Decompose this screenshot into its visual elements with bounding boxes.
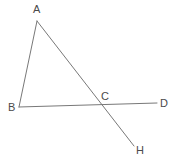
vertex-label-a: A xyxy=(33,4,40,15)
segment-AH-line xyxy=(37,21,134,146)
segment-AB-line xyxy=(19,21,37,107)
geometry-figure: A B C D H xyxy=(0,0,180,166)
geometry-canvas xyxy=(0,0,180,166)
vertex-label-c: C xyxy=(101,91,109,102)
segment-BD-line xyxy=(19,103,157,107)
vertex-label-h: H xyxy=(136,145,144,156)
vertex-label-d: D xyxy=(160,98,168,109)
vertex-label-b: B xyxy=(8,102,15,113)
